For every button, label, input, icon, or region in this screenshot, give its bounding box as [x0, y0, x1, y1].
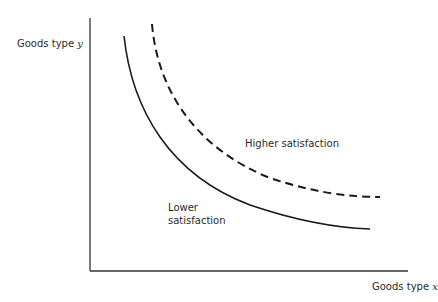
higher-satisfaction-label: Higher satisfaction	[245, 137, 339, 150]
y-axis-label-var: y	[77, 38, 83, 49]
y-axis-label-text: Goods type	[17, 38, 74, 49]
lower-satisfaction-label: Lower satisfaction	[168, 201, 226, 227]
lower-satisfaction-label-line2: satisfaction	[168, 214, 226, 227]
x-axis-label: Goods type x	[372, 280, 438, 293]
x-axis-label-var: x	[432, 281, 438, 292]
y-axis-label: Goods type y	[17, 37, 83, 50]
x-axis-label-text: Goods type	[372, 281, 429, 292]
lower-satisfaction-label-line1: Lower	[168, 201, 226, 214]
higher-satisfaction-curve	[152, 24, 380, 197]
